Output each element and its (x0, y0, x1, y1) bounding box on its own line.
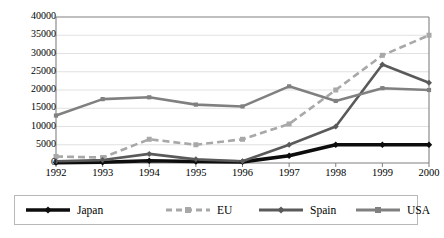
y-axis-tick-label: 15000 (10, 102, 56, 112)
data-point-marker (240, 137, 245, 142)
series-line-usa (56, 86, 429, 115)
y-axis-tick-label: 30000 (10, 48, 56, 58)
data-point-marker (146, 151, 152, 157)
chart-canvas (0, 0, 438, 190)
data-point-marker (194, 103, 198, 107)
legend-marker (185, 207, 191, 213)
legend-marker (375, 207, 381, 213)
y-axis-tick-label: 10000 (10, 121, 56, 131)
data-point-marker (240, 104, 244, 108)
y-axis-tick-label: 25000 (10, 66, 56, 76)
data-point-marker (426, 142, 432, 148)
legend-entries-container: JapanEUSpainUSA (15, 196, 417, 224)
legend-item-usa[interactable]: USA (355, 196, 430, 224)
x-axis-tick-label: 1995 (174, 167, 218, 178)
data-point-marker (147, 137, 152, 142)
y-axis-tick-label: 20000 (10, 84, 56, 94)
y-axis-tick-label: 0 (10, 157, 56, 167)
legend-marker (44, 206, 51, 213)
data-point-marker (101, 97, 105, 101)
data-point-marker (380, 53, 385, 58)
x-axis-tick-label: 1998 (314, 167, 358, 178)
legend-label: EU (217, 204, 232, 216)
legend-swatch-japan (25, 203, 71, 217)
x-axis-tick-label: 1993 (81, 167, 125, 178)
y-axis-tick-label: 40000 (10, 11, 56, 21)
legend-swatch-usa (355, 203, 401, 217)
data-point-marker (427, 88, 431, 92)
data-point-marker (333, 88, 338, 93)
data-point-marker (287, 121, 292, 126)
series-line-spain (56, 64, 429, 161)
legend-label: Japan (77, 204, 103, 216)
y-axis-tick-label: 5000 (10, 139, 56, 149)
y-axis-tick-labels: 0500010000150002000025000300003500040000 (0, 0, 56, 190)
legend-item-japan[interactable]: Japan (25, 196, 103, 224)
legend-label: USA (407, 204, 430, 216)
legend-swatch-spain (258, 203, 304, 217)
x-axis-tick-labels: 199219931994199519961997199819992000 (0, 167, 438, 187)
x-axis-tick-label: 1997 (267, 167, 311, 178)
series-group (56, 35, 429, 162)
y-axis-tick-label: 35000 (10, 29, 56, 39)
legend-marker (277, 206, 284, 213)
data-point-marker (334, 99, 338, 103)
chart-plot-panel: 0500010000150002000025000300003500040000… (0, 0, 438, 190)
data-point-marker (379, 142, 385, 148)
x-axis-tick-label: 1999 (360, 167, 404, 178)
legend-item-spain[interactable]: Spain (258, 196, 336, 224)
x-axis-tick-label: 1992 (34, 167, 78, 178)
data-point-marker (427, 33, 432, 38)
data-point-marker (147, 95, 151, 99)
data-point-marker (193, 142, 198, 147)
legend-swatch-eu (165, 203, 211, 217)
x-axis-tick-label: 2000 (407, 167, 444, 178)
data-point-marker (287, 84, 291, 88)
data-point-marker (380, 86, 384, 90)
legend-label: Spain (310, 204, 336, 216)
x-axis-tick-label: 1996 (221, 167, 265, 178)
chart-legend: JapanEUSpainUSA (14, 195, 418, 225)
legend-item-eu[interactable]: EU (165, 196, 232, 224)
x-axis-tick-label: 1994 (127, 167, 171, 178)
